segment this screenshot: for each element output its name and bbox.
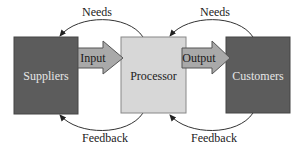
needs-label-right: Needs	[200, 5, 230, 19]
customers-label: Customers	[232, 69, 284, 83]
feedback-arc-left	[60, 113, 143, 131]
needs-arc-left	[60, 20, 143, 37]
feedback-label-left: Feedback	[82, 131, 128, 145]
node-suppliers: Suppliers	[14, 37, 78, 114]
node-processor: Processor	[121, 37, 186, 113]
node-customers: Customers	[226, 37, 290, 113]
input-arrow: Input	[78, 41, 123, 74]
output-label: Output	[182, 51, 216, 65]
feedback-label-right: Feedback	[191, 131, 237, 145]
needs-label-left: Needs	[82, 5, 112, 19]
processor-label: Processor	[130, 69, 177, 83]
output-arrow: Output	[182, 41, 230, 74]
suppliers-label: Suppliers	[23, 69, 69, 83]
feedback-loop-right: Feedback	[170, 113, 253, 145]
input-label: Input	[80, 51, 106, 65]
feedback-loop-left: Feedback	[60, 113, 143, 145]
needs-loop-right: Needs	[170, 5, 253, 37]
needs-loop-left: Needs	[60, 5, 143, 37]
needs-arc-right	[170, 20, 253, 37]
feedback-arc-right	[170, 113, 253, 131]
process-flow-diagram: Needs Needs Feedback Feedback Suppliers …	[0, 0, 304, 154]
